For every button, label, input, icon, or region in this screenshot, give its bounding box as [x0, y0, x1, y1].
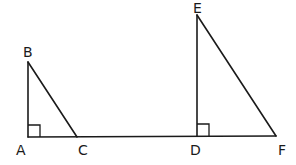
- right-angle-marker-a: [28, 125, 40, 137]
- label-a: A: [16, 142, 26, 158]
- label-e: E: [193, 0, 202, 16]
- label-b: B: [23, 44, 33, 60]
- baseline-segment-af: [28, 136, 276, 137]
- segment-bc: [28, 62, 77, 137]
- right-angle-marker-d: [197, 124, 209, 136]
- label-c: C: [78, 142, 88, 158]
- label-d: D: [190, 142, 201, 158]
- geometry-diagram: B A C D E F: [0, 0, 296, 165]
- label-f: F: [278, 142, 286, 158]
- segment-ef: [197, 15, 276, 136]
